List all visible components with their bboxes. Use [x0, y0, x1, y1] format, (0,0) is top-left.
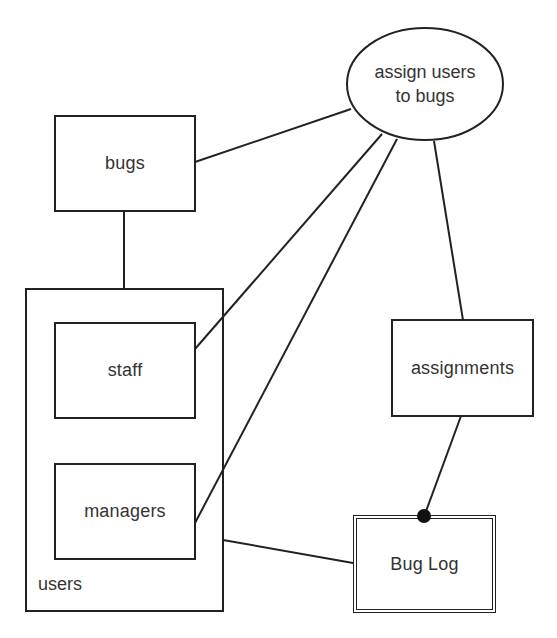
edge-bugs-process — [195, 109, 351, 162]
entity-users-label: users — [38, 574, 82, 595]
entity-managers[interactable]: managers — [54, 463, 196, 560]
entity-staff[interactable]: staff — [54, 322, 196, 419]
entity-bug-log[interactable]: Bug Log — [353, 515, 496, 613]
entity-managers-label: managers — [84, 501, 166, 522]
edge-assignments-buglog — [425, 416, 461, 514]
entity-assignments-label: assignments — [411, 358, 514, 379]
entity-assignments[interactable]: assignments — [391, 319, 534, 417]
edge-process-assignments — [434, 141, 463, 320]
process-label-line2: to bugs — [347, 84, 503, 108]
entity-bugs-label: bugs — [105, 153, 145, 174]
edge-managers-process — [195, 139, 397, 523]
edge-users-buglog — [223, 540, 353, 563]
entity-bugs[interactable]: bugs — [54, 115, 196, 212]
entity-staff-label: staff — [108, 360, 143, 381]
entity-bug-log-label: Bug Log — [390, 554, 458, 575]
process-label-line1: assign users — [347, 60, 503, 84]
process-label: assign users to bugs — [347, 60, 503, 108]
relationship-dot-icon — [417, 509, 431, 523]
